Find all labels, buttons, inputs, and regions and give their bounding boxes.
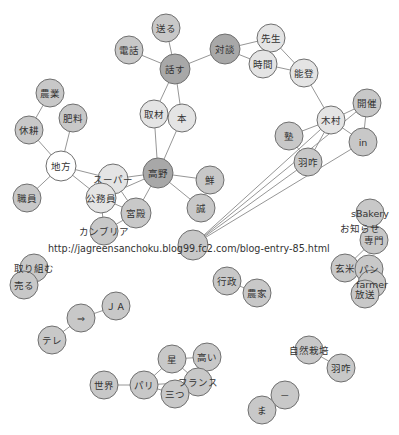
node-label: 農家 [247, 288, 267, 299]
node-label: パン [359, 264, 379, 275]
node-label: スーパー [93, 174, 133, 185]
node-label: 星 [167, 354, 177, 365]
node-label: 時間 [253, 59, 273, 70]
node-label: ま [257, 405, 267, 416]
node-label: お知らせ [340, 223, 380, 234]
node-label: 木村 [321, 115, 341, 126]
node-label: 本 [177, 113, 187, 124]
node-label: カンブリア [79, 226, 129, 237]
node-label: 世界 [94, 380, 114, 391]
node-label: 放送 [355, 289, 375, 300]
node-label: 玄米 [335, 263, 355, 274]
node-label: ⇒ [77, 313, 85, 324]
node-label: 行政 [217, 276, 237, 287]
node-label: 羽咋 [331, 363, 351, 374]
node-label: 開催 [357, 98, 377, 109]
node-label: 誠 [196, 203, 206, 214]
node-label: 先生 [261, 33, 281, 44]
node-label: 農業 [40, 88, 60, 99]
node-label: 専門 [364, 235, 384, 246]
node-label: 肥料 [63, 113, 83, 124]
node-label: － [280, 390, 290, 401]
node-label: 話す [165, 64, 185, 75]
node-layer: 送る電話話す対談先生時間能登取材本開催木村塾in羽咋農業肥料休耕地方職員スーパー… [10, 14, 389, 424]
node-label: 送る [156, 23, 176, 34]
node-label: 公務員 [86, 193, 116, 204]
node-label: 取り組む [14, 263, 54, 274]
node-label: フランス [178, 377, 218, 388]
node-label: in [359, 137, 368, 148]
node-label: 地方 [51, 161, 71, 172]
node-label: 取材 [144, 109, 164, 120]
network-diagram: 送る電話話す対談先生時間能登取材本開催木村塾in羽咋農業肥料休耕地方職員スーパー… [0, 0, 399, 435]
node-label: sBakery [351, 208, 389, 219]
node-label: 塾 [284, 131, 294, 142]
node-label: 売る [14, 280, 34, 291]
node-label: 職員 [17, 193, 37, 204]
node-label: 対談 [215, 44, 235, 55]
node-label: テレ [42, 335, 62, 346]
node-label: 羽咋 [298, 157, 318, 168]
node-label: 鮮 [205, 175, 215, 186]
node-label: 電話 [119, 45, 139, 56]
node-label: 高野 [148, 168, 168, 179]
node-label: 自然栽培 [289, 345, 329, 356]
node-label: 三つ [165, 389, 185, 400]
node-label: ＪＡ [106, 301, 126, 312]
node-label: 休耕 [19, 125, 39, 136]
node-label: 能登 [294, 68, 314, 79]
node-label: 高い [197, 352, 217, 363]
node-label: 宮殿 [126, 208, 146, 219]
edge-url-in [193, 142, 363, 245]
url-label: http://jagreensanchoku.blog99.fc2.com/bl… [48, 243, 330, 254]
node-label: パリ [134, 380, 154, 391]
